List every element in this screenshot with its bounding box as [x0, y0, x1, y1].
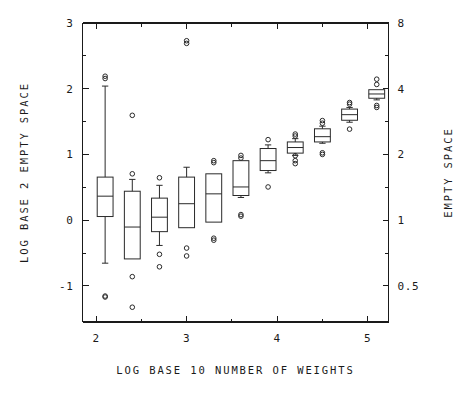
x-tick-label: 2: [92, 332, 99, 345]
y2-tick-label: 0.5: [398, 280, 420, 293]
chart-root: 2345 -10123 0.51248 LOG BASE 10 NUMBER O…: [0, 0, 471, 393]
outlier-point: [157, 265, 162, 270]
x-axis-title: LOG BASE 10 NUMBER OF WEIGHTS: [116, 364, 354, 376]
box-series: [97, 38, 384, 309]
box-iqr: [124, 191, 140, 259]
outlier-point: [293, 158, 298, 163]
outlier-point: [266, 185, 271, 190]
boxplot-group: [233, 153, 249, 218]
box-iqr: [314, 129, 330, 142]
boxplot-group: [260, 137, 276, 189]
boxplot-group: [97, 74, 113, 299]
x-tick-label: 4: [274, 332, 281, 345]
boxplot-group: [314, 118, 330, 156]
outlier-point: [266, 137, 271, 142]
y2-tick-label: 8: [398, 17, 405, 30]
y-tick-label: 2: [66, 83, 73, 96]
y2-tick-label: 4: [398, 83, 405, 96]
outlier-point: [184, 254, 189, 259]
y-axis-ticks: -10123: [59, 17, 88, 293]
box-iqr: [152, 198, 168, 232]
outlier-point: [347, 127, 352, 132]
outlier-point: [157, 175, 162, 180]
outlier-point: [130, 305, 135, 310]
y2-tick-label: 2: [398, 148, 405, 161]
y-tick-label: 0: [66, 214, 73, 227]
y2-tick-label: 1: [398, 214, 405, 227]
outlier-point: [130, 274, 135, 279]
boxplot-group: [287, 132, 303, 166]
outlier-point: [374, 82, 379, 87]
outlier-point: [130, 172, 135, 177]
outlier-point: [184, 246, 189, 251]
boxplot-group: [369, 77, 385, 110]
outlier-point: [130, 113, 135, 118]
plot-frame: [83, 23, 389, 322]
x-axis-ticks: 2345: [92, 23, 371, 345]
y-tick-label: 1: [66, 148, 73, 161]
y-tick-label: -1: [59, 280, 73, 293]
box-iqr: [206, 174, 222, 222]
box-iqr: [260, 149, 276, 171]
box-iqr: [179, 177, 195, 228]
boxplot-group: [206, 158, 222, 242]
boxplot-group: [124, 113, 140, 309]
x-tick-label: 5: [364, 332, 371, 345]
y-tick-label: 3: [66, 17, 73, 30]
outlier-point: [157, 252, 162, 257]
boxplot-group: [179, 38, 195, 258]
y2-axis-title: EMPTY SPACE: [442, 127, 454, 217]
boxplot-group: [342, 100, 358, 131]
box-iqr: [233, 161, 249, 196]
y-axis-title: LOG BASE 2 EMPTY SPACE: [18, 82, 30, 263]
outlier-point: [374, 77, 379, 82]
x-tick-label: 3: [183, 332, 190, 345]
boxplot-group: [152, 175, 168, 269]
box-iqr: [97, 177, 113, 216]
boxplot-figure: 2345 -10123 0.51248 LOG BASE 10 NUMBER O…: [0, 0, 471, 393]
